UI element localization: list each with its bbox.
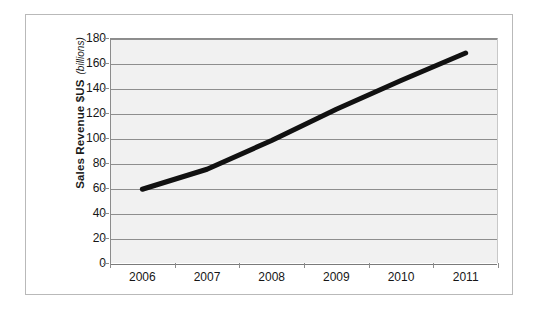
y-axis-tick-label: 140 bbox=[72, 81, 106, 95]
y-axis-tick-mark bbox=[103, 163, 109, 164]
gridline bbox=[111, 239, 497, 240]
x-axis-tick-mark bbox=[498, 263, 499, 268]
x-axis-tick-mark bbox=[175, 263, 176, 268]
gridline bbox=[111, 189, 497, 190]
x-axis-tick-mark bbox=[110, 263, 111, 268]
y-axis-tick-mark bbox=[103, 38, 109, 39]
gridline bbox=[111, 114, 497, 115]
y-axis-tick-label: 180 bbox=[72, 31, 106, 45]
line-chart: Sales Revenue $US (billions) 02040608010… bbox=[26, 15, 514, 296]
gridline bbox=[111, 64, 497, 65]
y-axis-tick-label: 0 bbox=[72, 256, 106, 270]
x-axis-tick-mark bbox=[433, 263, 434, 268]
x-axis-tick-mark bbox=[304, 263, 305, 268]
x-axis-tick-label: 2008 bbox=[258, 270, 285, 284]
y-axis-tick-mark bbox=[103, 263, 109, 264]
x-axis-tick-label: 2011 bbox=[453, 270, 479, 284]
y-axis-tick-label: 160 bbox=[72, 56, 106, 70]
y-axis-tick-labels: 020406080100120140160180 bbox=[66, 38, 106, 263]
y-axis-tick-mark bbox=[103, 88, 109, 89]
x-axis-tick-label: 2010 bbox=[388, 270, 415, 284]
y-axis-tick-label: 40 bbox=[72, 206, 106, 220]
y-axis-tick-label: 120 bbox=[72, 106, 106, 120]
x-axis-tick-labels: 200620072008200920102011 bbox=[110, 270, 500, 290]
gridline bbox=[111, 164, 497, 165]
x-axis-tick-mark bbox=[239, 263, 240, 268]
y-axis-tick-mark bbox=[103, 63, 109, 64]
x-axis-tick-label: 2006 bbox=[129, 270, 156, 284]
gridline bbox=[111, 89, 497, 90]
plot-area bbox=[110, 38, 498, 263]
y-axis-tick-label: 100 bbox=[72, 131, 106, 145]
y-axis-tick-mark bbox=[103, 113, 109, 114]
gridline bbox=[111, 139, 497, 140]
gridline bbox=[111, 39, 497, 40]
x-axis-tick-label: 2007 bbox=[194, 270, 221, 284]
y-axis-tick-mark bbox=[103, 138, 109, 139]
y-axis-tick-label: 20 bbox=[72, 231, 106, 245]
chart-frame: Sales Revenue $US (billions) 02040608010… bbox=[25, 14, 513, 295]
y-axis-tick-mark bbox=[103, 213, 109, 214]
y-axis-tick-mark bbox=[103, 188, 109, 189]
x-axis-tick-label: 2009 bbox=[323, 270, 350, 284]
gridline bbox=[111, 214, 497, 215]
y-axis-tick-mark bbox=[103, 238, 109, 239]
y-axis-tick-label: 80 bbox=[72, 156, 106, 170]
x-axis-tick-mark bbox=[369, 263, 370, 268]
y-axis-tick-label: 60 bbox=[72, 181, 106, 195]
